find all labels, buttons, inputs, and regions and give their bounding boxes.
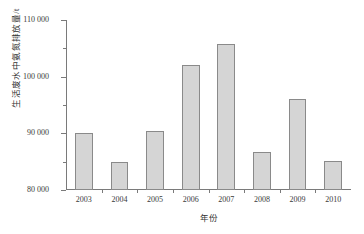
x-tick-label-2004: 2004 <box>102 195 138 204</box>
y-axis-line <box>66 20 67 190</box>
x-tick-label-2005: 2005 <box>137 195 173 204</box>
y-tick-minor-85000 <box>63 162 66 163</box>
x-axis-title: 年份 <box>66 211 351 223</box>
x-tick-7 <box>315 189 316 193</box>
y-tick-110000 <box>61 20 66 21</box>
x-tick-1 <box>102 189 103 193</box>
x-tick-6 <box>280 189 281 193</box>
y-tick-label-110000: 110 000 <box>0 15 49 24</box>
bar-2005 <box>146 131 164 190</box>
y-tick-label-100000: 100 000 <box>0 72 49 81</box>
x-tick-2 <box>137 189 138 193</box>
bar-2010 <box>324 161 342 190</box>
x-tick-label-2003: 2003 <box>66 195 102 204</box>
bar-2007 <box>217 44 235 190</box>
bar-chart: 生活废水中氨氮排放量/t 110 000 100 000 90 000 80 0… <box>0 0 364 234</box>
x-tick-label-2006: 2006 <box>173 195 209 204</box>
x-tick-5 <box>244 189 245 193</box>
x-tick-label-2009: 2009 <box>280 195 316 204</box>
x-tick-3 <box>173 189 174 193</box>
bar-2009 <box>289 99 307 190</box>
y-tick-minor-105000 <box>63 48 66 49</box>
y-tick-minor-95000 <box>63 105 66 106</box>
bar-2003 <box>75 133 93 190</box>
y-tick-100000 <box>61 77 66 78</box>
bar-2004 <box>111 162 129 190</box>
y-tick-label-90000: 90 000 <box>0 128 49 137</box>
plot-area: 110 000 100 000 90 000 80 000 2003 2004 … <box>66 20 351 190</box>
x-tick-label-2008: 2008 <box>244 195 280 204</box>
x-tick-label-2010: 2010 <box>315 195 351 204</box>
y-tick-80000 <box>61 190 66 191</box>
bar-2008 <box>253 152 271 191</box>
y-tick-label-80000: 80 000 <box>0 185 49 194</box>
x-tick-label-2007: 2007 <box>209 195 245 204</box>
y-tick-90000 <box>61 133 66 134</box>
x-tick-4 <box>209 189 210 193</box>
bar-2006 <box>182 65 200 190</box>
